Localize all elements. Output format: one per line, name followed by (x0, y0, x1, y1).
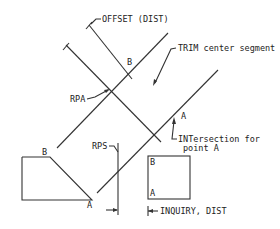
trim-leader (155, 48, 176, 83)
polygon-b-label: B (42, 147, 47, 157)
offset-leader (91, 19, 101, 24)
square-b-label: B (150, 157, 155, 167)
rps-leader (109, 146, 118, 152)
offset-label: OFFSET (DIST) (102, 14, 169, 24)
perpendicular-line-short (89, 25, 132, 79)
point-b-label: B (127, 57, 132, 67)
trim-label: TRIM center segment (178, 43, 275, 53)
point-a-label: A (181, 111, 186, 121)
offset-line-upper (57, 33, 168, 148)
cad-diagram: OFFSET (DIST) TRIM center segment B RPA … (0, 0, 280, 229)
arrow-icon (104, 89, 110, 93)
intersection-label-line2: point A (183, 143, 219, 153)
source-polygon (22, 157, 92, 200)
inquiry-label: INQUIRY, DIST (160, 206, 227, 216)
rpa-label: RPA (70, 94, 85, 104)
polygon-a-label: A (87, 200, 92, 210)
square-a-label: A (150, 188, 155, 198)
arrow-icon (148, 209, 153, 213)
arrow-icon (172, 117, 176, 124)
rps-label: RPS (92, 141, 107, 151)
arrow-icon (113, 208, 118, 212)
